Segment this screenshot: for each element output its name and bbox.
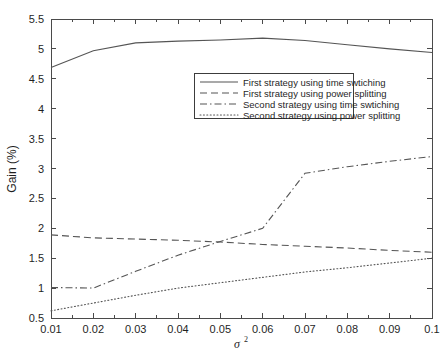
legend-label-2: Second strategy using time swtiching xyxy=(243,99,399,110)
y-tick-label: 1 xyxy=(38,282,44,294)
x-axis-label-exponent: 2 xyxy=(244,335,248,344)
legend-label-1: First strategy using power splitting xyxy=(243,88,387,99)
y-tick-label: 3.5 xyxy=(29,133,44,145)
x-tick-label: 0.07 xyxy=(294,323,315,335)
x-tick-label: 0.04 xyxy=(167,323,188,335)
y-tick-label: 4 xyxy=(38,103,44,115)
y-axis-label: Gain (%) xyxy=(5,145,19,192)
y-tick-label: 2 xyxy=(38,222,44,234)
y-tick-label: 1.5 xyxy=(29,252,44,264)
y-tick-label: 3 xyxy=(38,163,44,175)
y-tick-label: 2.5 xyxy=(29,192,44,204)
legend-label-0: First strategy using time swtiching xyxy=(243,77,386,88)
x-tick-label: 0.02 xyxy=(83,323,104,335)
figure-background xyxy=(0,0,445,364)
x-tick-label: 0.1 xyxy=(424,323,439,335)
y-tick-label: 5 xyxy=(38,43,44,55)
x-tick-label: 0.05 xyxy=(210,323,231,335)
legend-label-3: Second strategy using power splitting xyxy=(243,110,400,121)
x-tick-label: 0.03 xyxy=(125,323,146,335)
x-tick-label: 0.01 xyxy=(40,323,61,335)
y-tick-label: 4.5 xyxy=(29,73,44,85)
x-tick-label: 0.08 xyxy=(337,323,358,335)
x-tick-label: 0.06 xyxy=(252,323,273,335)
chart-figure: 0.511.522.533.544.555.5 0.010.020.030.04… xyxy=(0,0,445,364)
legend: First strategy using time swtichingFirst… xyxy=(194,73,400,121)
x-tick-label: 0.09 xyxy=(379,323,400,335)
y-tick-label: 5.5 xyxy=(29,13,44,25)
